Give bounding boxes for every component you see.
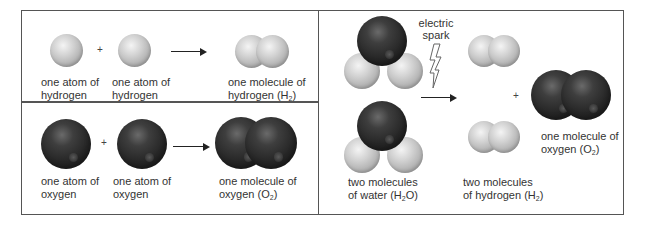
label-line: electric xyxy=(414,17,458,29)
label-line: of hydrogen (H2) xyxy=(463,189,543,202)
formula-text: oxygen (O xyxy=(541,143,592,155)
electric-spark-label: electric spark xyxy=(414,17,458,41)
oxygen-atom xyxy=(245,117,297,169)
label-line: one atom of xyxy=(41,175,99,188)
formula-text: ) xyxy=(274,188,278,200)
formula-text: hydrogen (H xyxy=(228,89,289,101)
label-line: spark xyxy=(414,29,458,41)
hydrogen-atom-1-label: one atom of hydrogen xyxy=(41,76,99,102)
formula-text: ) xyxy=(596,143,600,155)
label-line: oxygen xyxy=(113,188,171,201)
oxygen-atom-2-label: one atom of oxygen xyxy=(113,175,171,201)
label-line: one atom of xyxy=(41,76,99,89)
label-line: oxygen xyxy=(41,188,99,201)
hydrogen-atom xyxy=(256,35,289,68)
label-line: two molecules xyxy=(463,176,543,189)
plus-sign: + xyxy=(513,90,519,101)
formula-text: of water (H xyxy=(348,189,402,201)
formula-text: ) xyxy=(540,189,544,201)
plus-sign: + xyxy=(101,137,107,148)
oxygen-atom-1 xyxy=(41,119,91,169)
oxygen-atom xyxy=(357,16,407,66)
label-line: hydrogen (H2) xyxy=(228,89,306,102)
label-line: hydrogen xyxy=(112,89,170,102)
oxygen-atom-2 xyxy=(117,119,167,169)
plus-sign: + xyxy=(97,44,103,55)
formula-text: oxygen (O xyxy=(219,188,270,200)
label-line: oxygen (O2) xyxy=(219,188,297,201)
label-line: two molecules xyxy=(348,176,418,189)
hydrogen-atom xyxy=(488,121,520,153)
label-line: oxygen (O2) xyxy=(541,143,619,156)
water-molecules-label: two molecules of water (H2O) xyxy=(348,176,418,202)
hydrogen-atom xyxy=(488,35,520,67)
oxygen-atom-1-label: one atom of oxygen xyxy=(41,175,99,201)
hydrogen-atom-2-label: one atom of hydrogen xyxy=(112,76,170,102)
formula-text: O) xyxy=(406,189,418,201)
oxygen-molecule-label: one molecule of oxygen (O2) xyxy=(219,175,297,201)
lightning-bolt-icon xyxy=(428,43,446,89)
label-line: hydrogen xyxy=(41,89,99,102)
formula-text: ) xyxy=(292,89,296,101)
reaction-arrow-icon xyxy=(171,51,205,52)
label-line: one molecule of xyxy=(541,130,619,143)
label-line: one atom of xyxy=(113,175,171,188)
label-line: one atom of xyxy=(112,76,170,89)
hydrogen-atom-1 xyxy=(50,34,83,67)
label-line: of water (H2O) xyxy=(348,189,418,202)
hydrogen-molecule-label: one molecule of hydrogen (H2) xyxy=(228,76,306,102)
oxygen-molecule-label: one molecule of oxygen (O2) xyxy=(541,130,619,156)
label-line: one molecule of xyxy=(219,175,297,188)
hydrogen-atom-2 xyxy=(118,34,151,67)
label-line: one molecule of xyxy=(228,76,306,89)
oxygen-atom xyxy=(357,101,407,151)
oxygen-atom xyxy=(561,70,611,120)
hydrogen-molecules-label: two molecules of hydrogen (H2) xyxy=(463,176,543,202)
formula-text: of hydrogen (H xyxy=(463,189,536,201)
reaction-arrow-icon xyxy=(173,146,208,147)
reaction-arrow-icon xyxy=(421,97,455,98)
